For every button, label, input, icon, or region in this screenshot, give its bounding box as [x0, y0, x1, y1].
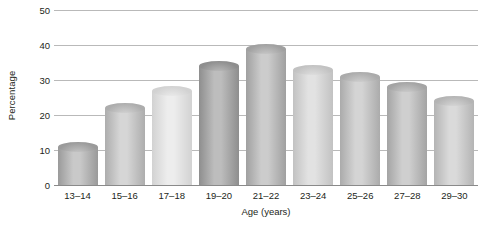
x-axis-title: Age (years)	[54, 206, 478, 217]
x-tick-label: 17–18	[150, 190, 194, 201]
y-tick-label-50: 50	[39, 5, 50, 16]
y-tick-label-0: 0	[45, 180, 50, 191]
y-tick-label-40: 40	[39, 40, 50, 51]
bar-slot	[150, 10, 194, 185]
bar-slot	[385, 10, 429, 185]
bar-slot	[291, 10, 335, 185]
bar	[387, 87, 427, 185]
y-axis-title-text: Percentage	[7, 70, 18, 120]
bar-slot	[338, 10, 382, 185]
bar-top-cap	[105, 103, 145, 113]
bar	[246, 49, 286, 186]
bar-top-cap	[387, 82, 427, 92]
x-tick-label: 19–20	[197, 190, 241, 201]
bar-slot	[432, 10, 476, 185]
bar-top-cap	[434, 96, 474, 106]
bar-slot	[103, 10, 147, 185]
bar-top-cap	[199, 61, 239, 71]
plot-area	[54, 10, 478, 185]
bar	[434, 101, 474, 185]
bar-top-cap	[246, 44, 286, 54]
bar	[105, 108, 145, 185]
x-tick-label: 21–22	[244, 190, 288, 201]
x-tick-label: 27–28	[385, 190, 429, 201]
x-axis-tick-labels: 13–1415–1617–1819–2021–2223–2425–2627–28…	[54, 190, 478, 206]
bar-slot	[244, 10, 288, 185]
bar	[199, 66, 239, 185]
axis-baseline	[54, 185, 478, 186]
bars-group	[54, 10, 478, 185]
x-tick-label: 25–26	[338, 190, 382, 201]
bar-chart-figure: Percentage 01020304050 13–1415–1617–1819…	[0, 0, 490, 232]
x-tick-label: 29–30	[432, 190, 476, 201]
bar-top-cap	[293, 65, 333, 75]
x-tick-label: 13–14	[56, 190, 100, 201]
x-tick-label: 23–24	[291, 190, 335, 201]
bar	[58, 147, 98, 186]
bar	[340, 77, 380, 186]
y-tick-label-30: 30	[39, 75, 50, 86]
y-axis-title: Percentage	[0, 0, 24, 190]
y-tick-label-20: 20	[39, 110, 50, 121]
bar-top-cap	[58, 142, 98, 152]
bar-top-cap	[340, 72, 380, 82]
bar	[293, 70, 333, 186]
y-axis-tick-labels: 01020304050	[28, 10, 54, 185]
y-tick-label-10: 10	[39, 145, 50, 156]
bar-top-cap	[152, 86, 192, 96]
x-tick-label: 15–16	[103, 190, 147, 201]
bar-slot	[56, 10, 100, 185]
bar-slot	[197, 10, 241, 185]
bar	[152, 91, 192, 186]
